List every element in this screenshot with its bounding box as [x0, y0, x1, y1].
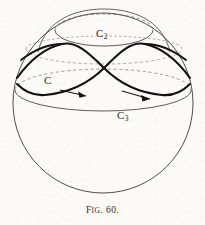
figure-page: C C2 C3 FIG. 60.	[0, 0, 205, 225]
figure-caption: FIG. 60.	[0, 205, 205, 215]
curve-c3-label: C3	[117, 110, 128, 123]
curve-c2-label: C2	[96, 28, 107, 41]
caption-number: . 60.	[100, 205, 119, 215]
curve-c-label: C	[44, 75, 51, 86]
curve-c-arrow-left	[60, 90, 86, 98]
curve-c3-subscript: 3	[124, 114, 128, 123]
ellipse-mid-front-dashed	[26, 49, 182, 64]
curve-c2-subscript: 2	[103, 32, 107, 41]
ellipse-c3-back-dashed	[15, 69, 191, 90]
ellipse-c3-front	[15, 90, 191, 111]
